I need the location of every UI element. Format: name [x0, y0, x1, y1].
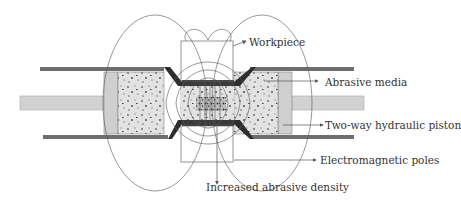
cylinder-top-wall [40, 67, 354, 71]
left-piston-rod [20, 96, 104, 110]
label-increased-abrasive-density: Increased abrasive density [206, 182, 349, 193]
label-electromagnetic-poles: Electromagnetic poles [320, 155, 439, 166]
left-piston-head [104, 72, 118, 134]
label-workpiece: Workpiece [249, 37, 305, 48]
cylinder-bottom-wall [43, 135, 354, 139]
media-left-chamber [118, 72, 164, 134]
label-hydraulic-piston: Two-way hydraulic piston [325, 120, 461, 131]
label-abrasive-media: Abrasive media [325, 77, 407, 88]
right-piston-rod [292, 96, 364, 110]
